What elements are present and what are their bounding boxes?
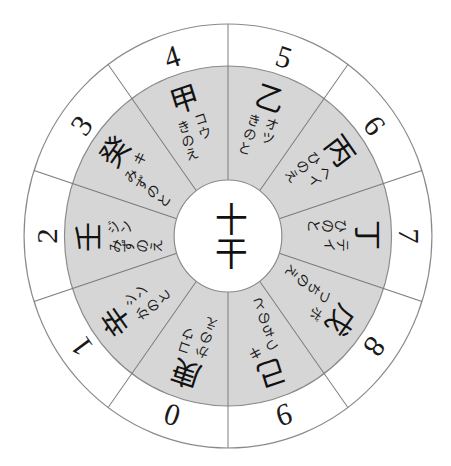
on-reading: ジン <box>106 220 133 236</box>
ten-stems-wheel-diagram: 4 甲 コウ きのえ 5 乙 オツ きのと 6 丙 ヘイ ひのえ 7 丁 テイ … <box>0 0 451 466</box>
year-digit: 7 <box>392 228 425 243</box>
on-reading: テイ <box>323 236 350 252</box>
year-digit: 2 <box>30 228 63 243</box>
kun-reading: みずのえ <box>108 239 163 255</box>
stem-kanji: 壬 <box>73 222 106 252</box>
center-label: 十干 <box>210 202 248 269</box>
kun-reading: ひのと <box>307 217 348 233</box>
wheel: 4 甲 コウ きのえ 5 乙 オツ きのと 6 丙 ヘイ ひのえ 7 丁 テイ … <box>24 24 432 448</box>
stem-kanji: 丁 <box>350 220 383 250</box>
